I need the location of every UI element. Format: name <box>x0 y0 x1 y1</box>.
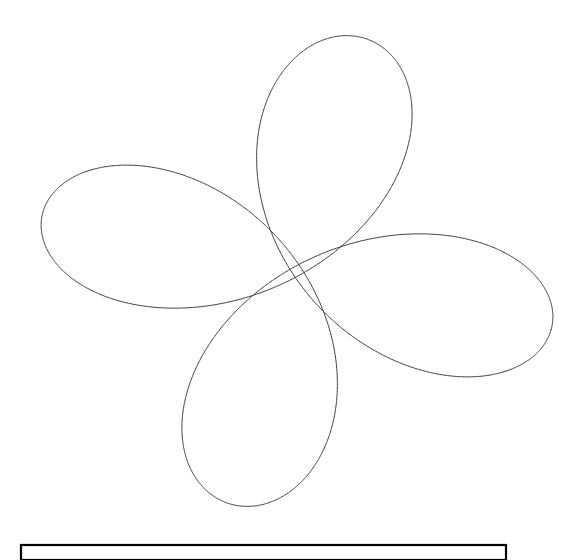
spirograph-plot <box>0 0 579 560</box>
figure-canvas <box>0 0 579 560</box>
